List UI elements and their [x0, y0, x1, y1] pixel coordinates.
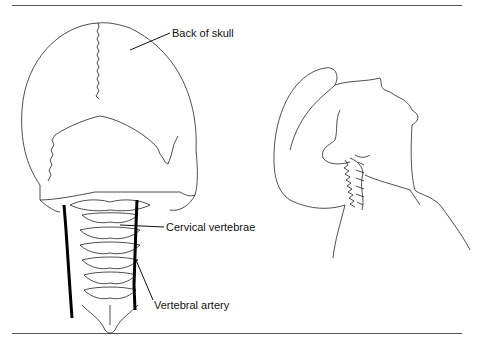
anatomy-illustration	[0, 0, 485, 359]
posterior-skull-view	[22, 23, 198, 333]
lateral-head-view	[274, 68, 470, 258]
label-cervical-vertebrae: Cervical vertebrae	[166, 221, 255, 233]
vertebral-arteries	[64, 200, 137, 318]
leader-lines	[120, 33, 170, 300]
label-vertebral-artery: Vertebral artery	[154, 299, 229, 311]
label-back-of-skull: Back of skull	[172, 27, 234, 39]
